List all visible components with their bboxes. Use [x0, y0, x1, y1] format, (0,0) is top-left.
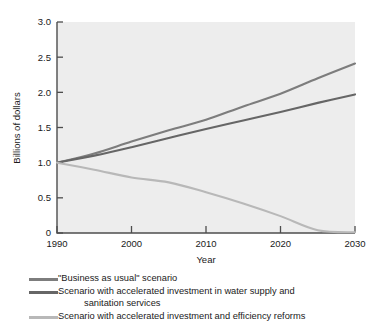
svg-text:2020: 2020: [270, 238, 291, 249]
svg-text:3.0: 3.0: [38, 16, 51, 27]
svg-text:1.5: 1.5: [38, 122, 51, 133]
svg-text:1990: 1990: [46, 238, 67, 249]
x-axis-tick-labels: 19902000201020202030: [46, 238, 365, 249]
legend-label: "Business as usual" scenario: [58, 272, 177, 284]
svg-text:2030: 2030: [344, 238, 365, 249]
line-chart: 00.51.01.52.02.53.0 19902000201020202030…: [0, 0, 371, 268]
legend-label-line1: Scenario with accelerated investment and…: [58, 311, 305, 321]
chart-legend: "Business as usual" scenario Scenario wi…: [0, 272, 371, 323]
x-axis-title: Year: [196, 254, 215, 265]
legend-item: "Business as usual" scenario: [0, 272, 371, 284]
legend-label-line1: "Business as usual" scenario: [58, 273, 177, 283]
legend-swatch-cell: [0, 272, 58, 281]
legend-item: Scenario with accelerated investment and…: [0, 310, 371, 322]
legend-color-swatch: [29, 291, 58, 294]
y-axis-title: Billions of dollars: [11, 92, 22, 164]
legend-item: Scenario with accelerated investment in …: [0, 285, 371, 309]
legend-label: Scenario with accelerated investment in …: [58, 285, 295, 309]
legend-swatch-cell: [0, 285, 58, 294]
legend-label-line2: sanitation services: [58, 298, 295, 309]
svg-text:1.0: 1.0: [38, 157, 51, 168]
svg-text:0.5: 0.5: [38, 192, 51, 203]
svg-text:2000: 2000: [121, 238, 142, 249]
legend-swatch-cell: [0, 310, 58, 319]
legend-label-line1: Scenario with accelerated investment in …: [58, 286, 295, 296]
plot-area-background: [57, 22, 355, 233]
legend-color-swatch: [29, 278, 58, 281]
svg-text:2.0: 2.0: [38, 87, 51, 98]
y-axis-tick-labels: 00.51.01.52.02.53.0: [38, 16, 51, 238]
svg-text:0: 0: [46, 227, 51, 238]
svg-text:2010: 2010: [195, 238, 216, 249]
legend-label: Scenario with accelerated investment and…: [58, 310, 305, 322]
figure-container: 00.51.01.52.02.53.0 19902000201020202030…: [0, 0, 371, 332]
svg-text:2.5: 2.5: [38, 52, 51, 63]
legend-color-swatch: [29, 316, 58, 319]
